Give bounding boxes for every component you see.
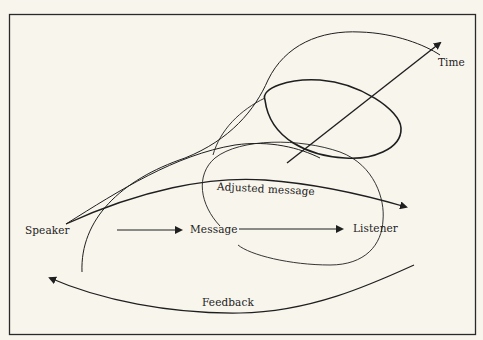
time-axis-arrow xyxy=(287,43,440,163)
spiral-lower-ellipse xyxy=(202,142,383,265)
diagram-frame xyxy=(10,15,476,335)
listener-label: Listener xyxy=(353,222,398,234)
message-label: Message xyxy=(190,223,238,235)
spiral-outer-loop xyxy=(82,32,440,272)
time-label: Time xyxy=(438,56,465,68)
speaker-label: Speaker xyxy=(25,224,70,236)
communication-diagram xyxy=(0,0,483,340)
feedback-label: Feedback xyxy=(202,296,254,308)
